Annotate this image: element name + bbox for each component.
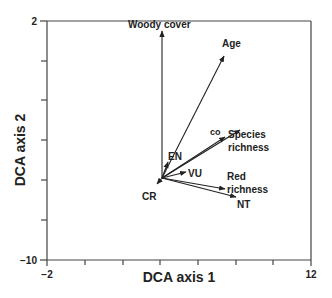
plot-frame <box>47 21 311 260</box>
label-en: EN <box>168 151 182 162</box>
y-axis-title: DCA axis 2 <box>12 113 28 186</box>
x-axis-title: DCA axis 1 <box>143 269 216 285</box>
label-species-line1: Species <box>228 129 266 140</box>
vector-vu <box>162 172 186 178</box>
y-tick-min: −10 <box>20 255 37 266</box>
y-tick-max: 2 <box>31 16 37 27</box>
label-species-line2: richness <box>228 142 270 153</box>
vector-nt <box>162 178 236 197</box>
label-vu: VU <box>188 168 202 179</box>
dca-biplot: 2 −10 −2 12 DCA axis 1 DCA axis 2 Woody … <box>0 0 332 298</box>
label-cr: CR <box>142 191 157 202</box>
x-axis-ticks <box>47 260 311 266</box>
label-co: co <box>210 127 221 137</box>
x-tick-max: 12 <box>305 269 317 280</box>
vector-red-richness <box>162 178 225 189</box>
vector-cr <box>157 178 162 184</box>
label-nt: NT <box>237 199 250 210</box>
label-woody-cover: Woody cover <box>128 19 191 30</box>
label-red-line2: richness <box>227 184 269 195</box>
label-red-line1: Red <box>227 171 246 182</box>
label-age: Age <box>222 38 241 49</box>
y-axis-ticks <box>40 21 47 260</box>
x-tick-min: −2 <box>41 269 53 280</box>
